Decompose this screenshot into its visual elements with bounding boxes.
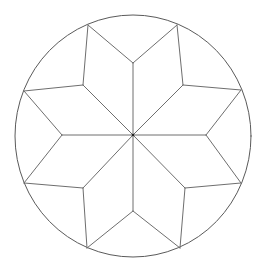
star-lines bbox=[24, 25, 241, 248]
edge bbox=[206, 135, 241, 183]
center-point bbox=[132, 134, 135, 137]
edge bbox=[180, 188, 185, 248]
edge bbox=[24, 183, 83, 188]
edge bbox=[183, 85, 241, 90]
edge bbox=[24, 91, 62, 135]
edge bbox=[206, 90, 241, 135]
edge bbox=[133, 25, 177, 63]
edge bbox=[87, 211, 133, 248]
edge bbox=[185, 183, 241, 188]
edge bbox=[24, 85, 83, 91]
spoke-diagonal-1 bbox=[133, 85, 183, 135]
star-diagram bbox=[0, 0, 265, 273]
edge bbox=[133, 211, 180, 248]
star-svg bbox=[0, 0, 265, 273]
edge bbox=[177, 25, 183, 85]
spoke-diagonal-3 bbox=[83, 135, 133, 188]
edge bbox=[83, 188, 87, 248]
edge bbox=[88, 25, 133, 63]
edge bbox=[24, 135, 62, 183]
spoke-diagonal-0 bbox=[83, 85, 133, 135]
edge bbox=[83, 25, 88, 85]
spoke-diagonal-2 bbox=[133, 135, 185, 188]
